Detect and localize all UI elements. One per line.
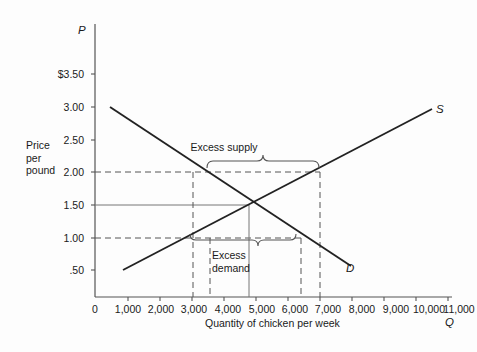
y-tick-label-1-00: 1.00 (18, 232, 84, 244)
x-tick-label-9000: 9,000 (383, 303, 409, 315)
y-tick-label-1-50: 1.50 (18, 199, 84, 211)
x-tick-label-3000: 3,000 (181, 303, 207, 315)
demand-curve (110, 107, 351, 266)
x-tick-labels: 0 1,000 2,000 3,000 4,000 5,000 6,000 7,… (0, 303, 477, 317)
y-axis-title-line-2: per (26, 152, 55, 165)
y-axis-title: Price per pound (26, 139, 55, 177)
y-axis-symbol: P (78, 24, 86, 36)
x-tick-label-10000: 10,000 (413, 303, 445, 315)
x-tick-label-0: 0 (92, 303, 98, 315)
x-axis-title: Quantity of chicken per week (205, 317, 340, 329)
supply-curve (123, 109, 432, 270)
supply-demand-chart: P Q $3.50 3.00 2.50 2.00 1.50 1.00 .50 P… (0, 0, 477, 352)
y-tick-label-0-50: .50 (18, 264, 84, 276)
demand-curve-label: D (346, 262, 354, 274)
excess-demand-label: Excess demand (212, 249, 250, 274)
x-tick-label-6000: 6,000 (282, 303, 308, 315)
y-tick-label-3-50: $3.50 (18, 68, 84, 80)
x-tick-label-1000: 1,000 (115, 303, 141, 315)
excess-demand-label-line-1: Excess (212, 249, 250, 262)
y-tick-label-3-00: 3.00 (18, 101, 84, 113)
supply-curve-label: S (436, 103, 444, 115)
y-axis-title-line-1: Price (26, 139, 55, 152)
x-tick-label-5000: 5,000 (249, 303, 275, 315)
excess-supply-brace (207, 155, 319, 168)
excess-demand-brace (190, 234, 296, 246)
x-tick-label-8000: 8,000 (349, 303, 375, 315)
x-tick-label-11000: 11,000 (443, 303, 474, 315)
x-tick-label-7000: 7,000 (315, 303, 341, 315)
excess-demand-label-line-2: demand (212, 262, 250, 275)
x-tick-label-4000: 4,000 (215, 303, 241, 315)
y-axis-title-line-3: pound (26, 164, 55, 177)
x-tick-label-2000: 2,000 (148, 303, 174, 315)
excess-supply-label: Excess supply (190, 141, 257, 154)
x-axis-symbol: Q (445, 316, 454, 328)
